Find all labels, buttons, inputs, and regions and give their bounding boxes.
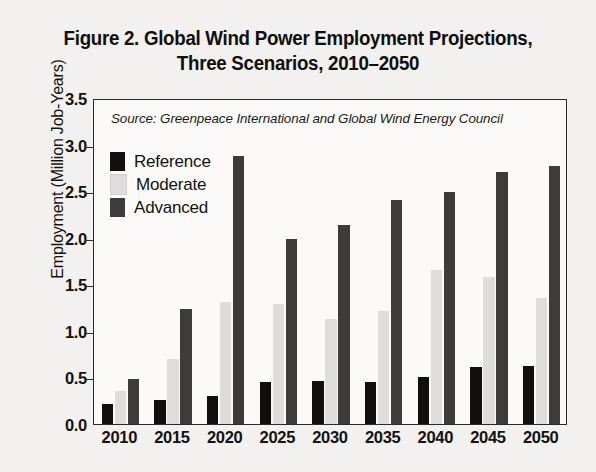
bar-reference-2030 [312, 381, 324, 424]
plot-area: Source: Greenpeace International and Glo… [93, 99, 567, 425]
figure-title: Figure 2. Global Wind Power Employment P… [0, 26, 596, 76]
bar-moderate-2010 [115, 391, 127, 424]
y-tick-label: 3.5 [65, 90, 87, 109]
y-tick-label: 1.5 [65, 276, 87, 295]
bar-advanced-2020 [233, 156, 245, 424]
bar-reference-2020 [207, 396, 219, 424]
y-tick-mark [85, 147, 94, 148]
x-tick-label: 2025 [260, 428, 296, 447]
bar-reference-2040 [418, 377, 430, 425]
bar-moderate-2025 [273, 304, 285, 424]
bar-reference-2035 [365, 382, 377, 424]
x-tick-label: 2040 [418, 428, 454, 447]
bar-moderate-2050 [536, 298, 548, 424]
x-tick-label: 2015 [154, 428, 190, 447]
bar-reference-2010 [102, 404, 114, 424]
x-tick-label: 2050 [523, 428, 559, 447]
figure-title-line-2: Three Scenarios, 2010–2050 [12, 51, 584, 76]
bar-moderate-2045 [483, 277, 495, 424]
bar-advanced-2030 [338, 225, 350, 424]
y-axis-tick-labels: 0.00.51.01.52.02.53.03.5 [41, 99, 87, 425]
x-tick-label: 2030 [312, 428, 348, 447]
bar-moderate-2030 [325, 319, 337, 424]
bar-moderate-2035 [378, 311, 390, 424]
bar-reference-2025 [260, 382, 272, 424]
x-axis-tick-labels: 201020152020202520302035204020452050 [93, 428, 567, 458]
bar-advanced-2035 [391, 200, 403, 424]
y-tick-label: 0.5 [65, 369, 87, 388]
bar-advanced-2050 [549, 166, 561, 424]
bar-reference-2050 [523, 366, 535, 424]
figure-page: Figure 2. Global Wind Power Employment P… [0, 0, 596, 472]
bar-advanced-2015 [180, 309, 192, 424]
y-tick-mark [85, 379, 94, 380]
y-tick-label: 3.0 [65, 136, 87, 155]
y-tick-label: 2.5 [65, 183, 87, 202]
figure-title-line-1: Figure 2. Global Wind Power Employment P… [12, 26, 584, 51]
bar-advanced-2025 [286, 239, 298, 424]
bars-layer [94, 100, 566, 424]
y-tick-mark [85, 193, 94, 194]
bar-advanced-2010 [128, 379, 140, 424]
x-tick-label: 2045 [470, 428, 506, 447]
y-tick-label: 2.0 [65, 229, 87, 248]
x-tick-label: 2020 [207, 428, 243, 447]
y-tick-mark [85, 286, 94, 287]
bar-reference-2045 [470, 367, 482, 424]
bar-moderate-2015 [167, 359, 179, 424]
y-tick-mark [85, 333, 94, 334]
y-tick-mark [85, 240, 94, 241]
bar-moderate-2020 [220, 302, 232, 424]
bar-moderate-2040 [431, 270, 443, 424]
bar-reference-2015 [154, 400, 166, 424]
bar-advanced-2040 [444, 192, 456, 424]
y-tick-label: 1.0 [65, 322, 87, 341]
y-tick-label: 0.0 [65, 416, 87, 435]
x-tick-label: 2035 [365, 428, 401, 447]
x-tick-label: 2010 [102, 428, 138, 447]
bar-advanced-2045 [496, 172, 508, 424]
